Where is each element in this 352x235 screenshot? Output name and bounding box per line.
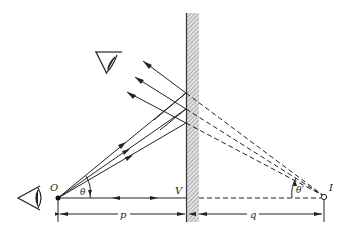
svg-text:θ: θ <box>80 187 86 197</box>
object-distance-label: p <box>120 209 127 220</box>
image-label: I <box>328 182 334 193</box>
plane-mirror-diagram: O I V θ θ′ p q <box>0 0 352 235</box>
svg-text:θ′: θ′ <box>296 185 303 195</box>
reflected-ray-arrows <box>127 61 152 99</box>
plane-mirror <box>186 13 199 222</box>
eye-icon-upper <box>95 52 122 74</box>
eye-icon <box>18 186 41 210</box>
image-point <box>321 194 326 199</box>
object-point <box>56 196 61 201</box>
image-angle: θ′ <box>292 178 304 198</box>
reflected-rays <box>127 61 186 130</box>
object-label: O <box>50 182 58 193</box>
image-distance-label: q <box>250 209 256 220</box>
vertex-label: V <box>175 185 184 196</box>
virtual-rays <box>186 93 324 196</box>
